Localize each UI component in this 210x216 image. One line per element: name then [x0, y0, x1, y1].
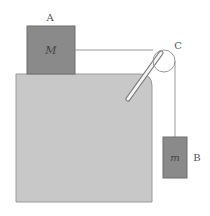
block-b-mass-label: m	[170, 152, 179, 163]
block-a-mass-label: M	[44, 44, 57, 57]
block-b-label: B	[193, 152, 200, 163]
pulley-diagram: M A C m B	[0, 0, 210, 216]
block-a-label: A	[45, 12, 54, 23]
pulley-label: C	[174, 40, 182, 51]
